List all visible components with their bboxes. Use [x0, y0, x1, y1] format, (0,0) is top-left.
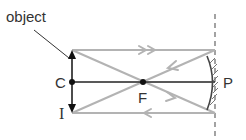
object-label: object: [6, 8, 47, 25]
focus-label: F: [138, 89, 147, 106]
ray-diagram: object C F P I: [0, 0, 246, 140]
center-of-curvature-label: C: [55, 74, 66, 91]
object-leader-line: [34, 30, 69, 58]
image-label: I: [59, 105, 64, 122]
center-of-curvature-dot: [69, 79, 75, 85]
arrow-down-left-icon: [168, 61, 178, 70]
focus-dot: [140, 79, 146, 85]
pole-label: P: [223, 74, 233, 91]
concave-mirror: [207, 56, 213, 110]
